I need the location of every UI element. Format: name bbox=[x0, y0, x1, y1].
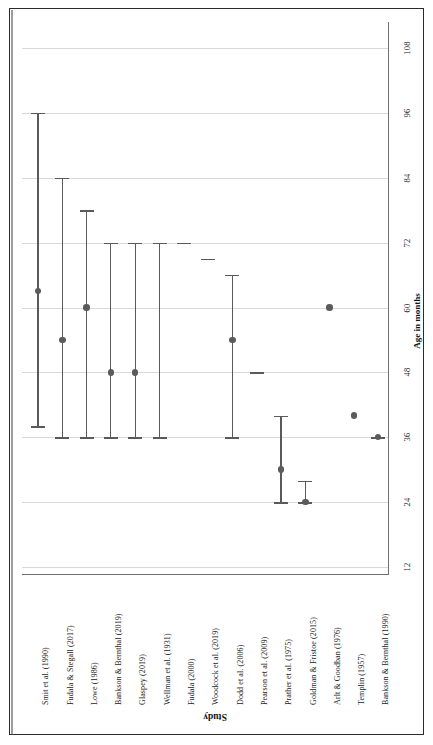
category-label: Woodcock et al. (2019) bbox=[211, 628, 220, 705]
error-bar-cap-single bbox=[201, 259, 215, 260]
data-point[interactable] bbox=[278, 466, 284, 472]
error-bar-cap-high bbox=[274, 416, 288, 417]
category-label: Goldman & Fristoe (2015) bbox=[309, 617, 318, 705]
category-label: Bankson & Bernthal (2019) bbox=[114, 613, 123, 705]
category-axis-title: Study bbox=[185, 712, 245, 722]
error-bar-cap-high bbox=[80, 210, 94, 211]
error-bar-cap-low bbox=[31, 426, 45, 427]
gridline-60 bbox=[22, 308, 388, 309]
error-bar-line bbox=[135, 243, 136, 438]
category-label: Glaspey (2019) bbox=[138, 654, 147, 705]
error-bar-line bbox=[232, 275, 233, 437]
error-bar-cap-high bbox=[298, 481, 312, 482]
category-label: Fudala & Stegall (2017) bbox=[66, 625, 75, 705]
category-label: Prather et al. (1975) bbox=[284, 639, 293, 705]
error-bar-cap-high bbox=[153, 243, 167, 244]
category-label: Wellman et al. (1931) bbox=[163, 633, 172, 705]
gridline-96 bbox=[22, 113, 388, 114]
data-point[interactable] bbox=[132, 369, 138, 375]
data-point[interactable] bbox=[351, 412, 357, 418]
data-point[interactable] bbox=[326, 304, 332, 310]
error-bar-line bbox=[37, 113, 38, 427]
value-tick-72: 72 bbox=[400, 230, 414, 256]
error-bar-line bbox=[280, 416, 281, 503]
gridline-84 bbox=[22, 178, 388, 179]
chart-page: 1224364860728496108 Age in months Smit e… bbox=[0, 0, 433, 745]
category-label: Smit et al. (1990) bbox=[41, 647, 50, 705]
gridline-108 bbox=[22, 48, 388, 49]
error-bar-line bbox=[110, 243, 111, 438]
value-tick-96: 96 bbox=[400, 100, 414, 126]
error-bar-cap-single bbox=[250, 372, 264, 373]
error-bar-cap-high bbox=[104, 243, 118, 244]
category-axis-line bbox=[22, 574, 389, 575]
category-label: Dodd et al. (2006) bbox=[236, 645, 245, 705]
value-tick-108: 108 bbox=[400, 35, 414, 61]
error-bar-cap-low bbox=[80, 437, 94, 438]
category-label: Fudala (2000) bbox=[187, 659, 196, 705]
error-bar-cap-low bbox=[274, 502, 288, 503]
data-point[interactable] bbox=[59, 337, 65, 343]
error-bar-cap-low bbox=[225, 437, 239, 438]
error-bar-line bbox=[159, 243, 160, 438]
data-point[interactable] bbox=[108, 369, 114, 375]
error-bar-cap-low bbox=[153, 437, 167, 438]
value-tick-36: 36 bbox=[400, 424, 414, 450]
error-bar-cap-high bbox=[55, 178, 69, 179]
value-tick-48: 48 bbox=[400, 359, 414, 385]
value-tick-12: 12 bbox=[400, 554, 414, 580]
plot-area bbox=[22, 22, 388, 574]
error-bar-line bbox=[62, 178, 63, 438]
category-label: Templin (1957) bbox=[357, 654, 366, 705]
category-label: Lowe (1986) bbox=[90, 662, 99, 705]
data-point[interactable] bbox=[302, 499, 308, 505]
value-axis-line bbox=[388, 22, 389, 574]
value-tick-84: 84 bbox=[400, 165, 414, 191]
error-bar-cap-single bbox=[177, 243, 191, 244]
data-point[interactable] bbox=[83, 304, 89, 310]
value-tick-24: 24 bbox=[400, 489, 414, 515]
data-point[interactable] bbox=[229, 337, 235, 343]
data-point[interactable] bbox=[375, 434, 381, 440]
error-bar-cap-high bbox=[31, 113, 45, 114]
error-bar-cap-low bbox=[55, 437, 69, 438]
category-label: Bankson & Bernthal (1990) bbox=[381, 613, 390, 705]
gridline-36 bbox=[22, 437, 388, 438]
gridline-72 bbox=[22, 243, 388, 244]
category-label: Pearson et al. (2009) bbox=[260, 637, 269, 705]
data-point[interactable] bbox=[35, 288, 41, 294]
error-bar-cap-low bbox=[104, 437, 118, 438]
value-axis-title: Age in months bbox=[412, 286, 422, 356]
gridline-48 bbox=[22, 372, 388, 373]
gridline-12 bbox=[22, 567, 388, 568]
error-bar-cap-high bbox=[128, 243, 142, 244]
error-bar-cap-high bbox=[225, 275, 239, 276]
category-label: Arlt & Goodban (1976) bbox=[333, 627, 342, 705]
error-bar-line bbox=[86, 210, 87, 437]
gridline-24 bbox=[22, 502, 388, 503]
error-bar-cap-low bbox=[128, 437, 142, 438]
